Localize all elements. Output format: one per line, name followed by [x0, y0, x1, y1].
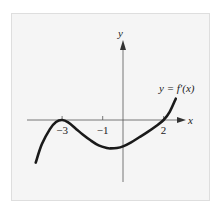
derivative-chart: −3−12 y x y = f′(x) — [0, 0, 218, 212]
x-axis-arrow-icon — [177, 117, 186, 123]
y-axis-arrow-icon — [120, 40, 126, 50]
x-axis-label: x — [187, 114, 193, 126]
x-tick-label: −1 — [97, 124, 109, 136]
x-tick-label: −3 — [56, 124, 68, 136]
y-axis-label: y — [117, 27, 123, 39]
curve-label: y = f′(x) — [158, 82, 195, 95]
x-tick-label: 2 — [161, 124, 167, 136]
